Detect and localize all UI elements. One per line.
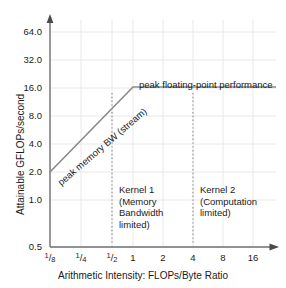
y-tick-label-0.5: 0.5 [12, 242, 42, 252]
x-tick-label-16: 16 [239, 253, 267, 263]
x-axis [50, 243, 279, 250]
x-tick-label-1-4: 1/4 [67, 252, 95, 263]
x-tick-label-1: 1 [119, 253, 147, 263]
x-tick-1-4-denominator: 4 [82, 255, 86, 264]
y-axis [47, 14, 54, 247]
kernel-1-line-3: Bandwidth [119, 207, 181, 219]
x-tick-label-2: 2 [149, 253, 177, 263]
y-tick-label-32: 32.0 [12, 55, 42, 65]
x-tick-label-4: 4 [179, 253, 207, 263]
y-tick-label-16: 16.0 [12, 83, 42, 93]
peak-flops-roof-label: peak floating-point performance [139, 80, 273, 90]
kernel-2-line-2: (Computation [200, 196, 274, 208]
chart-canvas [0, 0, 286, 288]
kernel-1-line-2: (Memory [119, 196, 181, 208]
x-axis-title: Arithmetic Intensity: FLOPs/Byte Ratio [0, 271, 286, 281]
roofline-chart: 64.0 32.0 16.0 8.0 4.0 2.0 1.0 0.5 1/8 1… [0, 0, 286, 288]
kernel-1-line-1: Kernel 1 [119, 184, 181, 196]
x-axis-arrowhead-icon [270, 243, 280, 250]
x-tick-label-8: 8 [209, 253, 237, 263]
kernel-1-line-4: limited) [119, 219, 181, 231]
y-tick-label-64: 64.0 [12, 27, 42, 37]
kernel-2-line-3: limited) [200, 207, 274, 219]
y-axis-arrowhead-icon [47, 14, 54, 23]
x-tick-label-1-8: 1/8 [36, 252, 64, 263]
y-axis-title: Attainable GFLOPs/second [16, 94, 26, 215]
x-tick-1-8-denominator: 8 [51, 255, 55, 264]
x-tick-1-2-denominator: 2 [113, 255, 117, 264]
kernel-1-annotation: Kernel 1 (Memory Bandwidth limited) [119, 184, 181, 230]
kernel-2-line-1: Kernel 2 [200, 184, 274, 196]
kernel-2-annotation: Kernel 2 (Computation limited) [200, 184, 274, 219]
